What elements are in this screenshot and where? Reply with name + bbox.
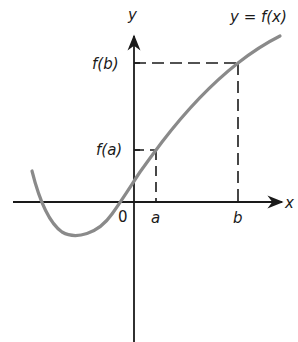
curve-label: y = f(x): [229, 8, 287, 26]
fb-label: f(b): [92, 55, 119, 73]
function-graph: y x 0 a b f(a) f(b) y = f(x): [0, 0, 298, 342]
y-axis-label: y: [127, 6, 138, 24]
function-curve: [32, 36, 280, 235]
b-label: b: [233, 209, 243, 227]
fa-label: f(a): [96, 141, 122, 159]
a-label: a: [151, 209, 160, 227]
dashed-guides-b: [134, 63, 238, 202]
origin-label: 0: [118, 208, 128, 226]
x-axis-label: x: [284, 194, 294, 212]
